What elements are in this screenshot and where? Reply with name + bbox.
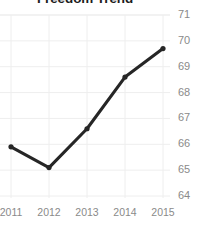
chart-container: Freedom Trend 6465666768697071 201120122… [0,0,199,227]
data-point-marker [46,165,51,170]
y-axis-tick-label: 69 [178,60,190,72]
data-point-marker [160,46,165,51]
y-axis-tick-label: 68 [178,86,190,98]
y-axis-tick-label: 65 [178,163,190,175]
y-axis-tick-label: 64 [178,189,190,201]
data-point-marker [8,144,13,149]
data-point-marker [122,74,127,79]
line-chart-plot [0,0,199,227]
y-axis-tick-label: 71 [178,8,190,20]
data-point-marker [84,126,89,131]
horizontal-gridlines [0,15,170,196]
y-axis-tick-label: 70 [178,34,190,46]
x-axis-tick-label: 2015 [141,206,185,218]
y-axis-tick-label: 66 [178,137,190,149]
y-axis-tick-label: 67 [178,111,190,123]
